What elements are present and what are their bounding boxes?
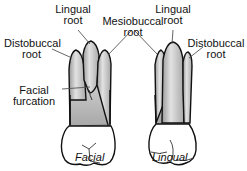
lingual-lingual-root xyxy=(162,42,184,123)
label-facial-lingual-root: Lingual root xyxy=(48,4,98,26)
caption-facial: Facial xyxy=(75,151,104,163)
lingual-distobuccal-root xyxy=(183,52,192,123)
label-facial-distobuccal-root: Distobuccal root xyxy=(4,38,70,60)
lingual-view-tooth xyxy=(149,42,196,165)
label-lingual-distobuccal-root: Distobuccal root xyxy=(184,38,247,60)
label-line: root xyxy=(48,15,98,26)
label-lingual-lingual-root: Lingual root xyxy=(148,4,198,26)
label-line: root xyxy=(4,49,70,60)
label-line: furcation xyxy=(8,96,60,107)
label-line: root xyxy=(184,49,247,60)
caption-lingual: Lingual xyxy=(152,151,187,163)
label-line: root xyxy=(96,27,170,38)
label-facial-furcation: Facial furcation xyxy=(8,85,60,107)
label-line: root xyxy=(148,15,198,26)
